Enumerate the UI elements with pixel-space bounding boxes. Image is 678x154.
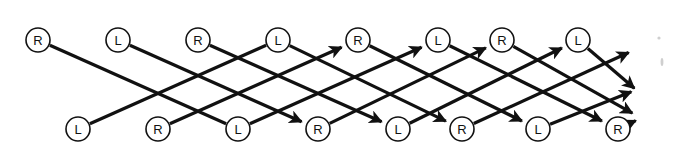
edge-ascending — [250, 47, 422, 123]
node-label: L — [74, 122, 81, 137]
node-top-row-7[interactable]: L — [566, 28, 590, 52]
node-label: R — [353, 33, 362, 48]
node-top-row-5[interactable]: L — [426, 28, 450, 52]
edge-ascending — [410, 48, 562, 123]
edge-descending — [130, 45, 302, 121]
node-top-row-2[interactable]: R — [186, 28, 210, 52]
edge-ascending — [474, 53, 629, 124]
node-label: L — [234, 122, 241, 137]
node-label: R — [457, 122, 466, 137]
scan-speck — [661, 58, 664, 66]
node-label: R — [497, 33, 506, 48]
node-top-row-0[interactable]: R — [26, 28, 50, 52]
node-top-row-4[interactable]: R — [346, 28, 370, 52]
edge-ascending — [330, 48, 486, 124]
node-label: L — [114, 33, 121, 48]
node-bottom-row-1[interactable]: R — [146, 117, 170, 141]
node-bottom-row-6[interactable]: L — [526, 117, 550, 141]
node-bottom-row-0[interactable]: L — [66, 117, 90, 141]
node-label: R — [313, 122, 322, 137]
edge-descending — [290, 46, 446, 122]
node-label: L — [274, 33, 281, 48]
node-top-row-1[interactable]: L — [106, 28, 130, 52]
edge-ascending — [630, 121, 636, 124]
node-label: R — [193, 33, 202, 48]
node-bottom-row-3[interactable]: R — [306, 117, 330, 141]
edge-ascending — [90, 45, 266, 123]
node-bottom-row-5[interactable]: R — [450, 117, 474, 141]
node-top-row-3[interactable]: L — [266, 28, 290, 52]
node-label: L — [434, 33, 441, 48]
node-bottom-row-7[interactable]: R — [606, 117, 630, 141]
figure-canvas: RLRLRLRLLRLRLRLR — [0, 0, 678, 154]
node-label: L — [394, 122, 401, 137]
node-top-row-6[interactable]: R — [490, 28, 514, 52]
scan-speck — [657, 36, 660, 39]
node-label: L — [574, 33, 581, 48]
lattice-svg: RLRLRLRLLRLRLRLR — [0, 0, 678, 154]
edge-ascending — [170, 47, 342, 123]
node-label: L — [534, 122, 541, 137]
node-label: R — [153, 122, 162, 137]
node-group: RLRLRLRLLRLRLRLR — [26, 28, 630, 141]
node-bottom-row-4[interactable]: L — [386, 117, 410, 141]
node-bottom-row-2[interactable]: L — [226, 117, 250, 141]
edge-descending — [370, 46, 522, 121]
node-label: R — [613, 122, 622, 137]
node-label: R — [33, 33, 42, 48]
